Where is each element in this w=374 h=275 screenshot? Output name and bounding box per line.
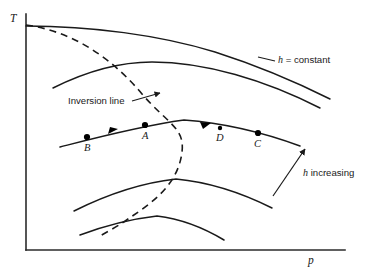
temperature-axis-label: T xyxy=(10,12,18,24)
h-increasing-text: increasing xyxy=(308,167,354,178)
isenthalpic-curve-4 xyxy=(74,179,272,211)
inversion-line-curve xyxy=(26,25,182,236)
state-point-c-label: C xyxy=(254,138,262,149)
inversion-line-annotation: Inversion line xyxy=(68,95,125,106)
h-increasing-arrow xyxy=(273,149,305,196)
annotations-group: h = constant Inversion line h increasing xyxy=(68,54,354,178)
state-point-b-label: B xyxy=(84,142,91,153)
h-constant-annotation: h = constant xyxy=(278,54,331,65)
state-point-d-label: D xyxy=(215,132,224,143)
state-point-c-dot xyxy=(255,130,261,136)
isenthalpic-curve-3 xyxy=(60,120,300,147)
flow-arrow-d-c xyxy=(200,122,211,129)
h-constant-text: = constant xyxy=(283,54,331,65)
h-increasing-annotation: h increasing xyxy=(303,167,354,178)
state-point-d-dot xyxy=(218,126,222,130)
state-point-b-dot xyxy=(84,134,90,140)
pressure-axis-label: p xyxy=(307,254,314,267)
state-point-a-dot xyxy=(142,122,148,128)
inversion-line-leader-arrow xyxy=(132,93,160,101)
state-point-a-label: A xyxy=(141,130,149,141)
h-constant-leader-line xyxy=(258,57,275,61)
axes-group: T p xyxy=(10,12,345,267)
diagram-canvas: T p B A D C xyxy=(0,0,374,275)
isenthalpic-curve-5 xyxy=(80,216,224,240)
thermodynamic-diagram-figure: T p B A D C xyxy=(0,0,374,275)
